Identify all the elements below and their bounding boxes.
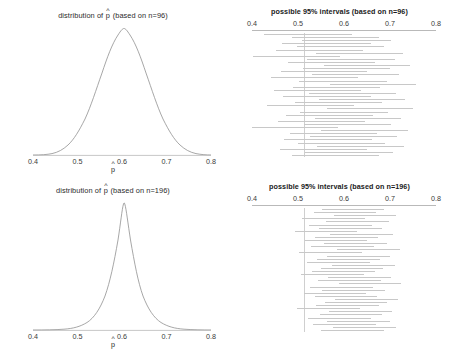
- interval-row: [252, 81, 436, 82]
- density-plot-n96: [33, 22, 211, 156]
- confidence-interval-segment: [307, 59, 394, 60]
- confidence-interval-segment: [327, 256, 390, 257]
- tick-label-4: 0.8: [431, 19, 441, 28]
- interval-row: [252, 228, 436, 229]
- confidence-interval-segment: [280, 149, 367, 150]
- confidence-interval-segment: [325, 302, 388, 303]
- interval-row: [252, 146, 436, 147]
- confidence-interval-segment: [322, 209, 385, 210]
- interval-row: [252, 280, 436, 281]
- confidence-interval-segment: [282, 43, 371, 44]
- interval-row: [252, 256, 436, 257]
- confidence-interval-segment: [274, 90, 361, 91]
- confidence-interval-segment: [319, 228, 382, 229]
- confidence-interval-segment: [326, 221, 389, 222]
- title-prefix: distribution of: [56, 186, 103, 195]
- interval-row: [252, 34, 436, 35]
- confidence-interval-segment: [253, 56, 340, 57]
- interval-row: [252, 246, 436, 247]
- interval-row: [252, 102, 436, 103]
- confidence-interval-segment: [318, 280, 381, 281]
- tick-label-1: 0.5: [293, 194, 303, 203]
- interval-row: [252, 115, 436, 116]
- interval-row: [252, 71, 436, 72]
- confidence-interval-segment: [332, 265, 395, 266]
- confidence-interval-segment: [312, 271, 375, 272]
- confidence-interval-segment: [329, 311, 392, 312]
- interval-row: [252, 139, 436, 140]
- interval-row: [252, 237, 436, 238]
- confidence-interval-segment: [316, 53, 403, 54]
- tick-label-3: 0.7: [385, 19, 395, 28]
- interval-row: [252, 136, 436, 137]
- ci-tick-labels-n196: 0.4 0.5 0.6 0.7 0.8: [252, 194, 436, 204]
- confidence-interval-segment: [292, 155, 379, 156]
- confidence-interval-segment: [312, 74, 399, 75]
- confidence-interval-segment: [302, 218, 365, 219]
- confidence-interval-segment: [284, 139, 371, 140]
- panel-title-intervals-n96: possible 95% intervals (based on n=96): [226, 7, 453, 16]
- interval-row: [252, 240, 436, 241]
- interval-row: [252, 234, 436, 235]
- confidence-interval-segment: [288, 62, 375, 63]
- interval-row: [252, 124, 436, 125]
- panel-title-distribution-n96: distribution of ^p (based on n=96): [0, 11, 226, 20]
- normal-curve-n196: [33, 203, 211, 330]
- interval-row: [252, 215, 436, 216]
- confidence-interval-segment: [276, 50, 363, 51]
- interval-row: [252, 305, 436, 306]
- hat-accent: ^: [111, 161, 114, 168]
- interval-row: [252, 287, 436, 288]
- title-suffix: (based on n=196): [108, 186, 169, 195]
- confidence-interval-segment: [334, 215, 397, 216]
- confidence-interval-segment: [335, 299, 398, 300]
- tick-label-0: 0.4: [247, 194, 257, 203]
- confidence-interval-segment: [322, 290, 385, 291]
- confidence-interval-segment: [333, 327, 396, 328]
- confidence-interval-segment: [339, 283, 402, 284]
- interval-row: [252, 96, 436, 97]
- confidence-interval-segment: [281, 71, 368, 72]
- hat-accent: ^: [104, 182, 107, 189]
- confidence-interval-segment: [311, 246, 374, 247]
- interval-row: [252, 112, 436, 113]
- confidence-interval-segment: [317, 259, 380, 260]
- interval-row: [252, 62, 436, 63]
- confidence-interval-segment: [292, 37, 379, 38]
- interval-row: [252, 262, 436, 263]
- confidence-interval-segment: [303, 68, 390, 69]
- interval-row: [252, 90, 436, 91]
- confidence-interval-segment: [321, 330, 384, 331]
- interval-row: [252, 40, 436, 41]
- interval-row: [252, 259, 436, 260]
- confidence-interval-segment: [309, 225, 372, 226]
- interval-row: [252, 212, 436, 213]
- hat-accent: ^: [111, 336, 114, 343]
- interval-row: [252, 77, 436, 78]
- confidence-interval-segment: [320, 314, 383, 315]
- confidence-interval-segment: [321, 130, 408, 131]
- panel-title-intervals-n196: possible 95% intervals (based on n=196): [226, 182, 453, 191]
- interval-row: [252, 87, 436, 88]
- interval-row: [252, 252, 436, 253]
- confidence-interval-segment: [297, 308, 360, 309]
- phat-symbol-axis: ^p: [111, 340, 116, 349]
- interval-row: [252, 330, 436, 331]
- interval-row: [252, 56, 436, 57]
- ci-interval-stack-n96: [252, 33, 436, 157]
- ci-axis-line-n96: [252, 30, 436, 31]
- confidence-interval-segment: [271, 77, 358, 78]
- confidence-interval-segment: [298, 143, 386, 144]
- confidence-interval-segment: [278, 121, 365, 122]
- interval-row: [252, 133, 436, 134]
- panel-title-distribution-n196: distribution of ^p (based on n=196): [0, 186, 226, 195]
- title-suffix: (based on n=96): [111, 11, 168, 20]
- confidence-interval-segment: [324, 65, 410, 66]
- panel-distribution-n96: distribution of ^p (based on n=96) 0.4 0…: [0, 0, 226, 177]
- interval-row: [252, 74, 436, 75]
- confidence-interval-segment: [264, 34, 353, 35]
- confidence-interval-segment: [300, 112, 387, 113]
- confidence-interval-segment: [305, 152, 392, 153]
- interval-row: [252, 225, 436, 226]
- phat-symbol: ^p: [105, 11, 110, 20]
